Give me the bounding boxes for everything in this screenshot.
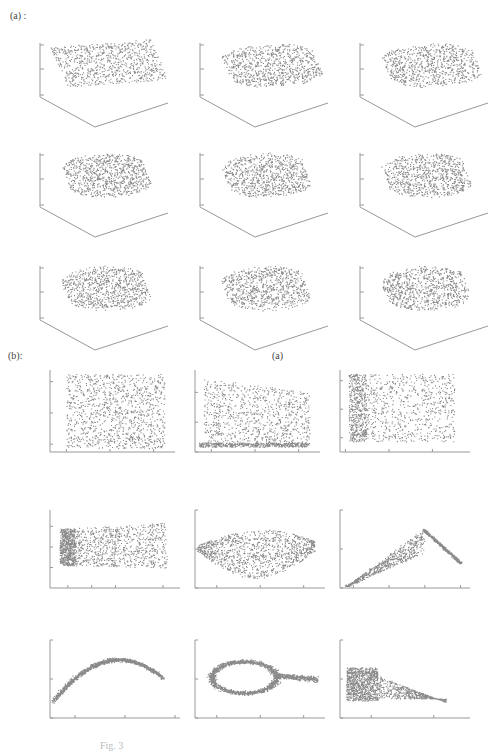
subplot-2d-axes — [340, 640, 475, 728]
subplot-3d-axes — [170, 35, 330, 135]
subplot-2d-axes — [340, 510, 475, 598]
subplot-3d-axes — [170, 258, 330, 358]
subplot-3d-axes — [330, 35, 490, 135]
subplot-2d-axes — [195, 640, 330, 728]
subplot-2d-axes — [340, 370, 475, 462]
scatter-points — [51, 40, 167, 88]
scatter-points — [383, 266, 470, 311]
scatter-points — [222, 44, 323, 88]
scatter-points — [60, 523, 168, 569]
scatter-points — [222, 153, 310, 198]
subplot-3d-axes — [330, 258, 490, 358]
section-a-label: (a) : — [10, 10, 26, 21]
subplot-2d-axes — [50, 370, 180, 462]
subplot-3d-axes — [10, 35, 170, 135]
scatter-points — [382, 43, 482, 88]
scatter-points — [349, 374, 456, 443]
subplot-3d-axes — [330, 145, 490, 245]
scatter-points — [345, 529, 463, 587]
scatter-points — [52, 657, 165, 703]
scatter-points — [222, 266, 311, 312]
scatter-points — [207, 659, 319, 696]
subplot-2d-axes — [50, 640, 185, 728]
scatter-points — [66, 374, 165, 449]
subplot-3d-axes — [10, 258, 170, 358]
scatter-points — [63, 154, 152, 198]
figure-caption: Fig. 3 — [100, 740, 123, 751]
scatter-points — [346, 667, 447, 702]
scatter-points — [197, 530, 315, 579]
scatter-points — [381, 153, 471, 198]
subplot-2d-axes — [195, 370, 325, 462]
scatter-points — [199, 379, 311, 448]
subplot-3d-axes — [170, 145, 330, 245]
subplot-3d-axes — [10, 145, 170, 245]
scatter-points — [62, 266, 151, 311]
subplot-2d-axes — [195, 510, 330, 598]
subplot-2d-axes — [50, 510, 185, 598]
